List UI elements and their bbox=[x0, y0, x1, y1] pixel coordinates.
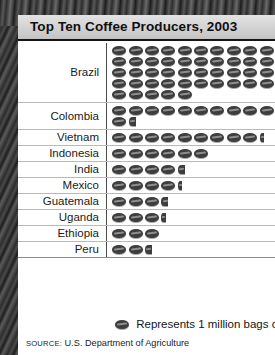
chart-row: Uganda bbox=[18, 210, 275, 226]
row-label-indonesia: Indonesia bbox=[18, 147, 106, 160]
coffee-bean-icon bbox=[112, 133, 126, 142]
coffee-bean-icon bbox=[194, 46, 208, 55]
coffee-bean-icon bbox=[227, 106, 241, 115]
coffee-bean-icon bbox=[145, 149, 159, 158]
coffee-bean-partial-icon bbox=[178, 165, 185, 174]
coffee-bean-icon bbox=[112, 245, 126, 254]
coffee-bean-icon bbox=[112, 90, 126, 99]
coffee-bean-icon bbox=[260, 106, 274, 115]
coffee-bean-icon bbox=[243, 106, 257, 115]
coffee-bean-icon bbox=[129, 79, 143, 88]
coffee-bean-icon bbox=[112, 229, 126, 238]
bean-group-mexico bbox=[106, 178, 275, 193]
row-label-peru: Peru bbox=[18, 243, 106, 256]
row-label-uganda: Uganda bbox=[18, 211, 106, 224]
coffee-bean-icon bbox=[129, 165, 143, 174]
coffee-bean-icon bbox=[243, 46, 257, 55]
chart-row: Vietnam bbox=[18, 130, 275, 146]
row-label-india: India bbox=[18, 163, 106, 176]
source-prefix: SOURCE: bbox=[26, 339, 62, 348]
coffee-bean-icon bbox=[161, 57, 175, 66]
coffee-bean-icon bbox=[227, 133, 241, 142]
coffee-bean-icon bbox=[227, 79, 241, 88]
coffee-bean-icon bbox=[260, 57, 274, 66]
coffee-bean-icon bbox=[129, 149, 143, 158]
coffee-bean-icon bbox=[145, 106, 159, 115]
coffee-bean-icon bbox=[178, 57, 192, 66]
coffee-bean-icon bbox=[145, 181, 159, 190]
row-label-guatemala: Guatemala bbox=[18, 195, 106, 208]
row-label-ethiopia: Ethiopia bbox=[18, 227, 106, 240]
coffee-bean-icon bbox=[129, 90, 143, 99]
chart-row: Guatemala bbox=[18, 194, 275, 210]
coffee-bean-icon bbox=[178, 68, 192, 77]
chart-legend: Represents 1 million bags of coffee bbox=[18, 315, 275, 333]
source-text: U.S. Department of Agriculture bbox=[65, 338, 190, 348]
chart-row: Mexico bbox=[18, 178, 275, 194]
coffee-bean-icon bbox=[178, 46, 192, 55]
coffee-bean-icon bbox=[243, 57, 257, 66]
row-label-vietnam: Vietnam bbox=[18, 131, 106, 144]
pictograph-chart: BrazilColombiaVietnamIndonesiaIndiaMexic… bbox=[18, 43, 275, 313]
coffee-bean-icon bbox=[129, 46, 143, 55]
coffee-bean-icon bbox=[194, 106, 208, 115]
coffee-bean-icon bbox=[161, 181, 175, 190]
coffee-bean-partial-icon bbox=[161, 197, 168, 206]
coffee-bean-icon bbox=[112, 68, 126, 77]
figure-title-bar: Top Ten Coffee Producers, 2003 bbox=[18, 15, 275, 41]
coffee-bean-icon bbox=[260, 79, 274, 88]
coffee-bean-icon bbox=[145, 68, 159, 77]
coffee-bean-icon bbox=[243, 68, 257, 77]
coffee-bean-icon bbox=[260, 46, 274, 55]
row-label-brazil: Brazil bbox=[18, 66, 106, 79]
coffee-bean-icon bbox=[194, 68, 208, 77]
coffee-bean-icon bbox=[227, 68, 241, 77]
coffee-bean-icon bbox=[227, 46, 241, 55]
chart-row: Ethiopia bbox=[18, 226, 275, 242]
coffee-bean-icon bbox=[112, 149, 126, 158]
coffee-bean-partial-icon bbox=[161, 213, 166, 222]
coffee-bean-icon bbox=[112, 165, 126, 174]
coffee-bean-icon bbox=[145, 229, 159, 238]
coffee-bean-icon bbox=[210, 46, 224, 55]
coffee-bean-icon bbox=[145, 90, 159, 99]
coffee-bean-icon bbox=[112, 106, 126, 115]
coffee-bean-icon bbox=[260, 68, 274, 77]
coffee-bean-icon bbox=[129, 213, 143, 222]
bean-group-colombia bbox=[106, 103, 275, 129]
coffee-bean-icon bbox=[161, 133, 175, 142]
coffee-bean-icon bbox=[129, 197, 143, 206]
bean-group-indonesia bbox=[106, 146, 275, 161]
coffee-bean-icon bbox=[145, 213, 159, 222]
coffee-bean-icon bbox=[161, 165, 175, 174]
coffee-bean-icon bbox=[129, 133, 143, 142]
coffee-bean-icon bbox=[161, 68, 175, 77]
coffee-bean-icon bbox=[194, 79, 208, 88]
coffee-bean-icon bbox=[210, 57, 224, 66]
coffee-bean-icon bbox=[210, 68, 224, 77]
row-label-mexico: Mexico bbox=[18, 179, 106, 192]
coffee-bean-icon bbox=[112, 57, 126, 66]
coffee-bean-partial-icon bbox=[145, 245, 152, 254]
coffee-bean-icon bbox=[178, 149, 192, 158]
coffee-bean-icon bbox=[178, 106, 192, 115]
chart-row: Brazil bbox=[18, 43, 275, 103]
bean-group-guatemala bbox=[106, 194, 275, 209]
coffee-bean-icon bbox=[210, 79, 224, 88]
bean-group-india bbox=[106, 162, 275, 177]
coffee-bean-icon bbox=[112, 79, 126, 88]
coffee-bean-icon bbox=[145, 133, 159, 142]
page-title: Top Ten Coffee Producers, 2003 bbox=[30, 19, 237, 34]
source-note: SOURCE: U.S. Department of Agriculture bbox=[26, 338, 275, 348]
chart-row: Indonesia bbox=[18, 146, 275, 162]
coffee-bean-icon bbox=[112, 117, 126, 126]
bean-group-brazil bbox=[106, 43, 275, 102]
bean-group-ethiopia bbox=[106, 226, 275, 241]
bean-group-vietnam bbox=[106, 130, 275, 145]
coffee-bean-icon bbox=[243, 79, 257, 88]
chart-row: Peru bbox=[18, 242, 275, 258]
bean-group-uganda bbox=[106, 210, 275, 225]
coffee-bean-partial-icon bbox=[178, 181, 183, 190]
chart-row: Colombia bbox=[18, 103, 275, 130]
coffee-bean-partial-icon bbox=[260, 133, 265, 142]
